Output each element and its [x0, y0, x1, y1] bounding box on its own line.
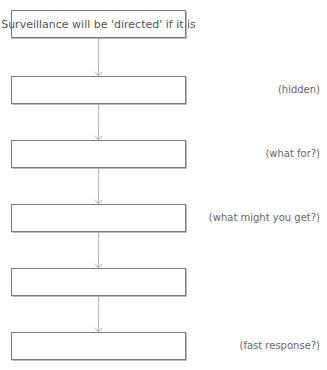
label-fast-response: (fast response?): [240, 340, 321, 351]
arrow-2: [98, 104, 99, 140]
label-what-for: (what for?): [265, 148, 320, 159]
flow-box-5: [11, 268, 186, 296]
arrow-4: [98, 232, 99, 268]
flow-box-1-text: Surveillance will be 'directed' if it is: [1, 18, 196, 31]
flow-box-2: [11, 76, 186, 104]
arrow-5: [98, 296, 99, 332]
flow-box-1: Surveillance will be 'directed' if it is: [11, 10, 186, 38]
label-what-might-you-get: (what might you get?): [209, 212, 320, 223]
arrow-3: [98, 168, 99, 204]
flow-box-6: [11, 332, 186, 360]
flow-box-3: [11, 140, 186, 168]
label-hidden: (hidden): [278, 84, 320, 95]
flow-box-4: [11, 204, 186, 232]
arrow-1: [98, 38, 99, 76]
